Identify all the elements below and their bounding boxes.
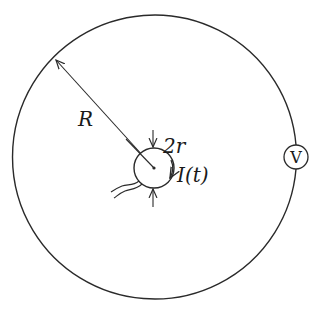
diameter-label: 2r [162, 134, 187, 158]
current-label: I(t) [176, 163, 209, 187]
voltmeter-label: V [289, 148, 302, 167]
radius-label: R [77, 107, 93, 131]
lead-wires [111, 181, 142, 198]
diagram-canvas: V R I(t) 2r [0, 0, 324, 314]
radius-arrow [56, 60, 154, 168]
center-dot [152, 166, 155, 169]
voltmeter: V [284, 145, 308, 169]
